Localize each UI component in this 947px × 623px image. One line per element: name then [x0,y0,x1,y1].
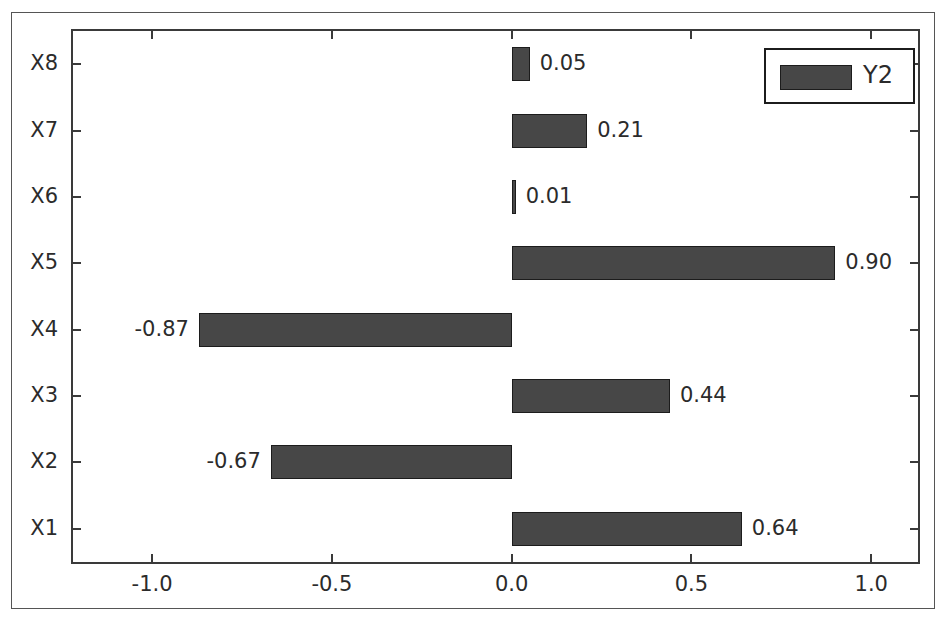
x-tick-label-0: -1.0 [132,574,173,595]
y-tick-label-x6: X6 [0,186,58,207]
x-tick-mark-top-4 [870,31,872,39]
x-tick-mark-0 [151,554,153,562]
bar-x4 [199,313,512,347]
y-tick-mark-right-x3 [910,395,918,397]
bar-value-label-x5: 0.90 [845,252,892,273]
y-tick-mark-x2 [73,461,81,463]
bar-value-label-x6: 0.01 [526,186,573,207]
bar-value-label-x8: 0.05 [540,53,587,74]
y-tick-label-x4: X4 [0,319,58,340]
x-tick-mark-top-0 [151,31,153,39]
y-tick-mark-right-x2 [910,461,918,463]
y-tick-mark-right-x4 [910,329,918,331]
bar-x8 [512,47,530,81]
bar-chart-figure: 0.64-0.670.44-0.870.900.010.210.05 Y2 X1… [0,0,947,623]
y-tick-label-x1: X1 [0,518,58,539]
bar-x6 [512,180,516,214]
y-tick-label-x3: X3 [0,385,58,406]
bar-x7 [512,114,588,148]
x-tick-label-4: 1.0 [855,574,888,595]
x-tick-label-1: -0.5 [311,574,352,595]
x-tick-mark-top-1 [331,31,333,39]
y-tick-label-x5: X5 [0,252,58,273]
bar-value-label-x7: 0.21 [597,120,644,141]
y-tick-mark-x6 [73,196,81,198]
bar-value-label-x3: 0.44 [680,385,727,406]
x-tick-mark-2 [511,554,513,562]
plot-inner-canvas: 0.64-0.670.44-0.870.900.010.210.05 [73,31,918,562]
x-tick-label-3: 0.5 [675,574,708,595]
y-tick-mark-x4 [73,329,81,331]
x-tick-mark-4 [870,554,872,562]
x-tick-mark-top-2 [511,31,513,39]
y-tick-mark-x3 [73,395,81,397]
x-tick-mark-3 [690,554,692,562]
bar-x3 [512,379,670,413]
bar-x5 [512,246,836,280]
bar-value-label-x1: 0.64 [752,518,799,539]
plot-area: 0.64-0.670.44-0.870.900.010.210.05 Y2 [71,29,920,564]
x-tick-mark-top-3 [690,31,692,39]
bar-x2 [271,445,512,479]
y-tick-label-x8: X8 [0,53,58,74]
y-tick-mark-x7 [73,130,81,132]
bar-value-label-x4: -0.87 [135,319,189,340]
bar-value-label-x2: -0.67 [206,451,260,472]
y-tick-mark-right-x1 [910,528,918,530]
y-tick-mark-right-x6 [910,196,918,198]
x-tick-label-2: 0.0 [495,574,528,595]
y-tick-mark-x1 [73,528,81,530]
y-tick-mark-x5 [73,262,81,264]
y-tick-mark-right-x5 [910,262,918,264]
legend: Y2 [764,48,915,104]
bar-x1 [512,512,742,546]
y-tick-label-x2: X2 [0,451,58,472]
y-tick-mark-x8 [73,63,81,65]
y-tick-label-x7: X7 [0,120,58,141]
y-tick-mark-right-x7 [910,130,918,132]
x-tick-mark-1 [331,554,333,562]
legend-swatch-y2 [780,65,852,90]
legend-label-y2: Y2 [863,63,893,87]
